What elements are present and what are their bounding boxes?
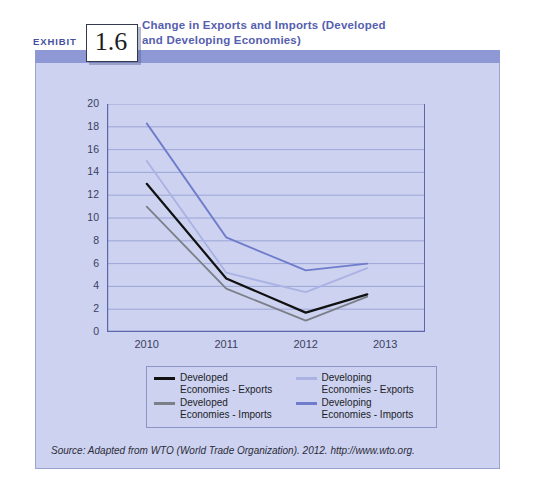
legend-item: Developed Economies - Exports — [154, 372, 296, 397]
legend-item: Developing Economies - Imports — [296, 397, 438, 422]
legend-item: Developing Economies - Exports — [296, 372, 438, 397]
exhibit-label: EXHIBIT — [33, 36, 77, 47]
legend-item-label: Developed Economies - Exports — [180, 372, 272, 396]
x-axis-tick-label: 2010 — [117, 338, 177, 350]
y-axis-tick-label: 10 — [73, 211, 99, 223]
legend-item-label: Developing Economies - Imports — [322, 397, 414, 421]
legend-color-swatch — [154, 402, 175, 405]
legend-item-label: Developed Economies - Imports — [180, 397, 272, 421]
y-axis-tick-label: 18 — [73, 120, 99, 132]
y-axis-tick-label: 4 — [73, 279, 99, 291]
chart-legend: Developed Economies - ExportsDeveloping … — [146, 366, 437, 428]
exhibit-number: 1.6 — [86, 24, 136, 60]
exhibit-figure: EXHIBIT 1.6 Change in Exports and Import… — [0, 0, 535, 502]
y-axis-tick-label: 20 — [73, 97, 99, 109]
legend-item: Developed Economies - Imports — [154, 397, 296, 422]
line-chart-svg — [107, 104, 425, 332]
y-axis-tick-label: 8 — [73, 234, 99, 246]
y-axis-tick-label: 0 — [73, 325, 99, 337]
series-line — [147, 161, 368, 292]
plot-area — [107, 104, 425, 332]
series-line — [147, 123, 368, 270]
source-note: Source: Adapted from WTO (World Trade Or… — [51, 445, 415, 456]
y-axis-tick-label: 12 — [73, 188, 99, 200]
legend-color-swatch — [296, 402, 317, 405]
y-axis-tick-label: 16 — [73, 143, 99, 155]
y-axis-tick-label: 14 — [73, 165, 99, 177]
x-axis-tick-label: 2012 — [276, 338, 336, 350]
y-axis-tick-label: 6 — [73, 257, 99, 269]
x-axis-tick-label: 2013 — [355, 338, 415, 350]
legend-item-label: Developing Economies - Exports — [322, 372, 414, 396]
legend-color-swatch — [154, 377, 175, 380]
y-axis-tick-label: 2 — [73, 302, 99, 314]
x-axis-tick-label: 2011 — [196, 338, 256, 350]
series-line — [147, 184, 368, 313]
figure-title: Change in Exports and Imports (Developed… — [142, 18, 402, 48]
legend-color-swatch — [296, 377, 317, 380]
